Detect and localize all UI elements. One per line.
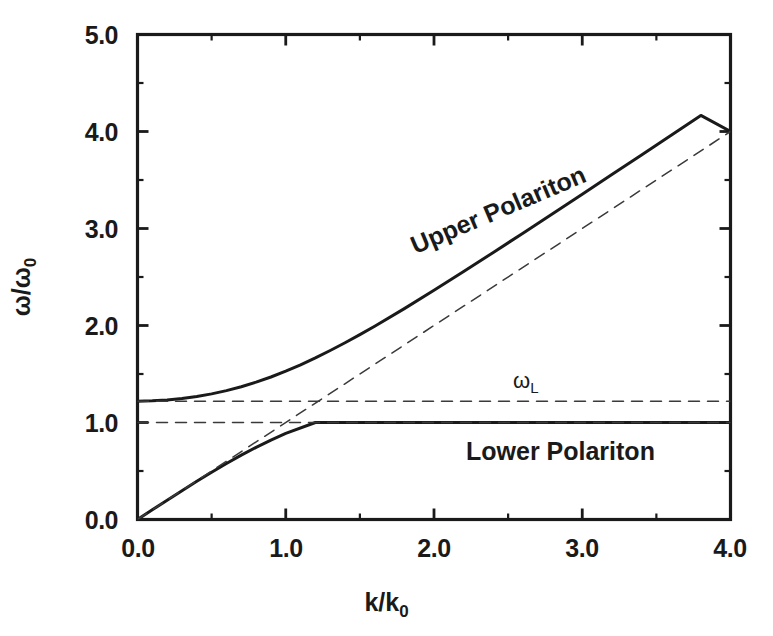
x-tick-label-1: 1.0 [256, 534, 316, 563]
y-tick-label-2: 2.0 [44, 312, 118, 341]
y-tick-label-0: 0.0 [44, 506, 118, 535]
lower-polariton-label: Lower Polariton [466, 437, 655, 466]
polariton-dispersion-figure: 0.0 1.0 2.0 3.0 4.0 5.0 0.0 1.0 2.0 3.0 … [0, 0, 773, 636]
omega-l-annotation: ωL [513, 368, 539, 396]
y-axis-title: ω/ω0 [7, 237, 41, 337]
x-tick-label-4: 4.0 [700, 534, 760, 563]
x-tick-label-3: 3.0 [552, 534, 612, 563]
x-tick-label-0: 0.0 [108, 534, 168, 563]
y-axis-title-main: ω/ω [7, 267, 35, 316]
x-axis-title-main: k/k [364, 588, 399, 616]
y-tick-label-3: 3.0 [44, 215, 118, 244]
omega-l-main: ω [513, 368, 530, 393]
x-tick-label-2: 2.0 [404, 534, 464, 563]
y-tick-label-4: 4.0 [44, 118, 118, 147]
y-tick-label-1: 1.0 [44, 409, 118, 438]
omega-l-subscript: L [530, 379, 538, 396]
x-axis-title-subscript: 0 [399, 602, 408, 621]
y-axis-title-subscript: 0 [21, 258, 40, 267]
x-axis-title: k/k0 [0, 588, 773, 622]
y-tick-label-5: 5.0 [44, 21, 118, 50]
